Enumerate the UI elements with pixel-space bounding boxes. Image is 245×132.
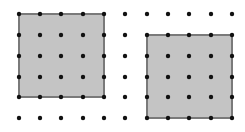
grid-dot — [230, 33, 234, 37]
grid-dot — [102, 75, 106, 79]
grid-dot — [123, 12, 127, 16]
grid-dot — [209, 33, 213, 37]
grid-dot — [187, 116, 191, 120]
grid-dot — [209, 54, 213, 58]
grid-dot — [59, 12, 63, 16]
grid-dot — [166, 116, 170, 120]
grid-dot — [166, 75, 170, 79]
grid-dot — [59, 116, 63, 120]
grid-dot — [38, 95, 42, 99]
grid-dot — [145, 12, 149, 16]
grid-dot — [230, 95, 234, 99]
grid-dot — [17, 95, 21, 99]
grid-dot — [17, 116, 21, 120]
grid-dot — [209, 116, 213, 120]
grid-dot — [38, 54, 42, 58]
grid-dot — [123, 95, 127, 99]
grid-dot — [230, 12, 234, 16]
grid-dot — [123, 33, 127, 37]
grid-dot — [38, 75, 42, 79]
grid-dot — [230, 116, 234, 120]
grid-dot — [209, 12, 213, 16]
grid-dot — [166, 95, 170, 99]
grid-dot — [187, 75, 191, 79]
grid-dot — [38, 116, 42, 120]
grid-dot — [209, 95, 213, 99]
grid-dot — [59, 95, 63, 99]
grid-dot — [187, 33, 191, 37]
grid-dot — [81, 33, 85, 37]
grid-dot — [145, 54, 149, 58]
grid-dot — [17, 33, 21, 37]
diagram-svg — [0, 0, 245, 132]
grid-dot — [59, 33, 63, 37]
grid-dot — [145, 33, 149, 37]
grid-dot — [166, 12, 170, 16]
grid-dot — [38, 12, 42, 16]
grid-dot — [230, 75, 234, 79]
grid-dot — [59, 54, 63, 58]
grid-dot — [123, 116, 127, 120]
grid-dot — [166, 54, 170, 58]
grid-dot — [17, 75, 21, 79]
squares-layer — [19, 14, 232, 118]
grid-dot — [123, 54, 127, 58]
grid-dot — [81, 12, 85, 16]
grid-dot — [145, 116, 149, 120]
grid-dot — [81, 95, 85, 99]
grid-dot — [187, 95, 191, 99]
grid-dot — [145, 75, 149, 79]
grid-dot — [187, 54, 191, 58]
grid-dot — [187, 12, 191, 16]
grid-dot — [81, 75, 85, 79]
grid-dot — [102, 33, 106, 37]
grid-dot — [230, 54, 234, 58]
grid-dot — [209, 75, 213, 79]
grid-dot — [81, 116, 85, 120]
grid-dot — [102, 54, 106, 58]
grid-dot — [17, 12, 21, 16]
grid-dot — [123, 75, 127, 79]
grid-dot — [17, 54, 21, 58]
grid-dot — [102, 116, 106, 120]
dot-grid-diagram — [0, 0, 245, 132]
grid-dot — [145, 95, 149, 99]
grid-dot — [38, 33, 42, 37]
grid-dot — [102, 12, 106, 16]
grid-dot — [81, 54, 85, 58]
grid-dot — [166, 33, 170, 37]
grid-dot — [102, 95, 106, 99]
grid-dot — [59, 75, 63, 79]
